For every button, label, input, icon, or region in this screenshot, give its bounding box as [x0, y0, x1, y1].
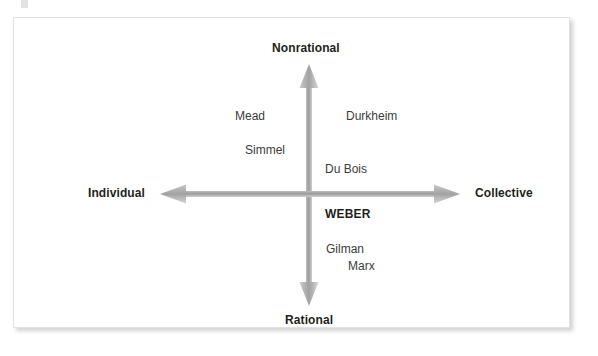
node-label-durkheim: Durkheim	[346, 110, 397, 122]
node-label-marx: Marx	[348, 260, 375, 272]
axis-label-collective: Collective	[475, 187, 533, 199]
node-label-gilman: Gilman	[326, 243, 364, 255]
horizontal-axis-arrow	[160, 179, 460, 209]
node-label-mead: Mead	[235, 110, 265, 122]
axis-label-rational: Rational	[285, 314, 333, 326]
node-label-weber: WEBER	[325, 208, 371, 220]
node-label-du-bois: Du Bois	[325, 163, 367, 175]
figure-card: Nonrational Rational Individual Collecti…	[13, 17, 570, 328]
axis-label-individual: Individual	[88, 187, 145, 199]
clipped-text-artifact	[21, 0, 28, 8]
figure-stage: Nonrational Rational Individual Collecti…	[0, 0, 598, 356]
axis-label-nonrational: Nonrational	[272, 42, 340, 54]
node-label-simmel: Simmel	[245, 144, 285, 156]
